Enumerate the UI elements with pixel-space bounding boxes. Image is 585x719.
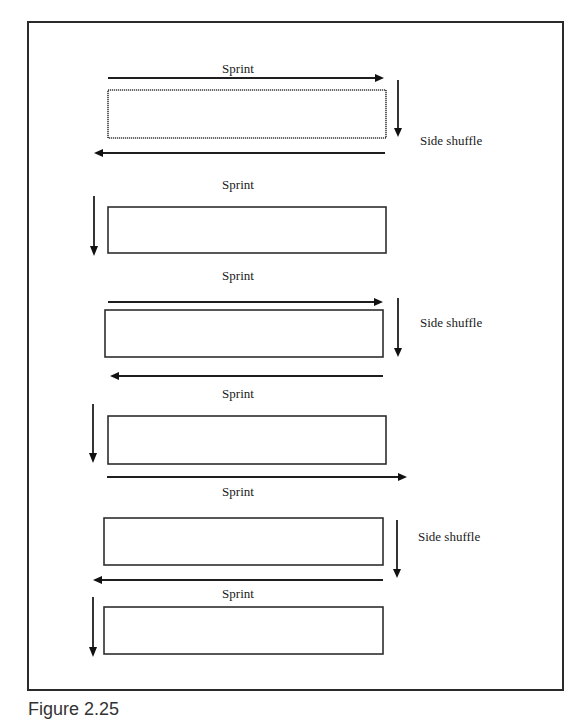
arrow-left-icon bbox=[110, 372, 383, 380]
cone-lane-box bbox=[108, 207, 386, 253]
sprint-label: Sprint bbox=[222, 61, 254, 76]
cone-lane-box bbox=[104, 518, 383, 565]
figure-caption: Figure 2.25 bbox=[28, 700, 119, 718]
arrow-down-icon bbox=[393, 520, 401, 578]
arrow-down-icon bbox=[394, 298, 402, 357]
sprint-label: Sprint bbox=[222, 484, 254, 499]
sprint-label: Sprint bbox=[222, 586, 254, 601]
side-shuffle-label: Side shuffle bbox=[420, 133, 482, 148]
side-shuffle-label: Side shuffle bbox=[418, 529, 480, 544]
cone-lane-box bbox=[104, 607, 383, 654]
arrow-down-icon bbox=[89, 404, 97, 463]
arrow-down-icon bbox=[394, 80, 402, 137]
sprint-label: Sprint bbox=[222, 268, 254, 283]
cone-lane-box bbox=[108, 416, 386, 464]
cone-lane-box bbox=[108, 90, 386, 138]
sprint-label: Sprint bbox=[222, 177, 254, 192]
arrow-left-icon bbox=[94, 149, 385, 157]
arrow-down-icon bbox=[89, 597, 97, 657]
arrow-left-icon bbox=[93, 576, 383, 584]
sprint-label: Sprint bbox=[222, 386, 254, 401]
cone-lane-box bbox=[105, 310, 383, 357]
arrow-right-icon bbox=[108, 298, 383, 306]
side-shuffle-label: Side shuffle bbox=[420, 315, 482, 330]
arrow-right-icon bbox=[107, 473, 407, 481]
arrow-down-icon bbox=[90, 196, 98, 256]
